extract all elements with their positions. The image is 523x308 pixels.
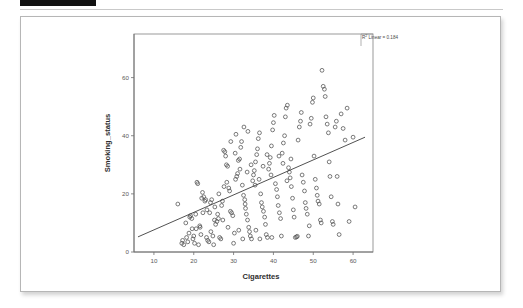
- x-tick-label: 50: [310, 257, 317, 264]
- data-point: [341, 127, 345, 131]
- data-point: [289, 185, 293, 189]
- data-point: [300, 173, 304, 177]
- data-point: [245, 170, 249, 174]
- data-point: [199, 233, 203, 237]
- data-point: [184, 221, 188, 225]
- y-axis-title: Smoking_status: [103, 114, 112, 173]
- data-point: [255, 153, 259, 157]
- x-tick-label: 40: [270, 257, 277, 264]
- data-point: [193, 241, 197, 245]
- data-point: [256, 137, 260, 141]
- data-point: [241, 237, 245, 241]
- data-point: [276, 195, 280, 199]
- data-point: [315, 186, 319, 190]
- data-point: [299, 119, 303, 123]
- data-point: [244, 207, 248, 211]
- data-point: [353, 205, 357, 209]
- data-point: [251, 179, 255, 183]
- data-point: [268, 161, 272, 165]
- data-point: [242, 193, 246, 197]
- data-point: [226, 225, 230, 229]
- data-point: [343, 138, 347, 142]
- data-point: [299, 111, 303, 115]
- regression-line: [138, 137, 365, 237]
- data-point: [281, 141, 285, 145]
- data-point: [311, 100, 315, 104]
- data-point: [270, 236, 274, 240]
- y-tick-label: 20: [122, 190, 129, 197]
- data-point: [248, 230, 252, 234]
- data-point: [272, 121, 276, 125]
- x-tick-label: 60: [350, 257, 357, 264]
- data-point: [246, 218, 250, 222]
- data-point: [258, 131, 262, 135]
- data-point: [327, 160, 331, 164]
- data-point: [190, 227, 194, 231]
- x-axis-ticks: 102030405060: [150, 252, 357, 264]
- data-point: [254, 228, 258, 232]
- data-point: [328, 175, 332, 179]
- data-point: [304, 207, 308, 211]
- data-point: [212, 243, 216, 247]
- data-point: [277, 154, 281, 158]
- data-point: [213, 205, 217, 209]
- data-point: [329, 195, 333, 199]
- data-point: [336, 202, 340, 206]
- data-point: [326, 131, 330, 135]
- data-point: [267, 167, 271, 171]
- data-point: [311, 96, 315, 100]
- data-point: [325, 122, 329, 126]
- data-point: [209, 230, 213, 234]
- data-point: [274, 182, 278, 186]
- data-point: [301, 180, 305, 184]
- data-point: [197, 243, 201, 247]
- data-point: [305, 212, 309, 216]
- data-point: [308, 122, 312, 126]
- x-tick-label: 10: [150, 257, 157, 264]
- data-point: [258, 237, 262, 241]
- data-point: [176, 202, 180, 206]
- data-point: [347, 220, 351, 224]
- r2-value-text: Linear = 0.184: [367, 35, 398, 40]
- data-point: [217, 192, 221, 196]
- data-point: [291, 196, 295, 200]
- data-point: [307, 224, 311, 228]
- data-point: [285, 179, 289, 183]
- data-point: [229, 140, 233, 144]
- data-point: [244, 212, 248, 216]
- data-point: [264, 222, 268, 226]
- data-point: [211, 234, 215, 238]
- data-point: [323, 95, 327, 99]
- data-points-group: [176, 68, 357, 246]
- data-point: [194, 212, 198, 216]
- data-point: [257, 177, 261, 181]
- data-point: [260, 205, 264, 209]
- data-point: [281, 161, 285, 165]
- data-point: [249, 163, 253, 167]
- x-tick-label: 20: [190, 257, 197, 264]
- data-point: [279, 217, 283, 221]
- data-point: [201, 211, 205, 215]
- scatter-plot-svg: 0204060 102030405060 Cigarettes Smoking_…: [21, 17, 502, 293]
- data-point: [303, 189, 307, 193]
- data-point: [307, 234, 311, 238]
- data-point: [263, 215, 267, 219]
- data-point: [333, 125, 337, 129]
- data-point: [220, 204, 224, 208]
- data-point: [292, 215, 296, 219]
- data-point: [240, 183, 244, 187]
- data-point: [232, 231, 236, 235]
- data-point: [339, 112, 343, 116]
- data-point: [232, 241, 236, 245]
- y-tick-label: 0: [126, 248, 130, 255]
- data-point: [265, 153, 269, 157]
- data-point: [222, 185, 226, 189]
- data-point: [297, 125, 301, 129]
- data-point: [205, 208, 209, 212]
- data-point: [320, 68, 324, 72]
- data-point: [289, 157, 293, 161]
- data-point: [280, 151, 284, 155]
- data-point: [270, 144, 274, 148]
- data-point: [194, 227, 198, 231]
- data-point: [225, 180, 229, 184]
